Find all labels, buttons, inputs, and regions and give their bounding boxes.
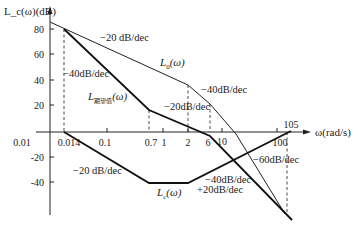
- annotation-lc-slope2: +20dB/dec: [197, 184, 244, 195]
- annotation-l0-slope2: −40dB/dec: [201, 84, 248, 95]
- y-tick-60: 60: [34, 49, 44, 60]
- y-ticks: [50, 29, 54, 182]
- annotation-lc-slope1: −20 dB/dec: [73, 165, 122, 176]
- x-tick-0.014: 0.014: [58, 137, 81, 148]
- x-tick-6: 6: [206, 137, 211, 148]
- annotation-l0-slope1: −20 dB/dec: [100, 32, 149, 43]
- y-tick-80: 80: [34, 24, 44, 35]
- x-tick-0.7: 0.7: [145, 137, 158, 148]
- x-tick-0.01: 0.01: [13, 137, 31, 148]
- desired-label: L期望值(ω): [87, 90, 128, 105]
- x-tick-0.1: 0.1: [99, 137, 112, 148]
- l0-label: L0(ω): [159, 56, 185, 71]
- annotation-desired-slope1: −40dB/dec: [63, 68, 110, 79]
- y-tick-40: 40: [34, 75, 44, 86]
- x-tick-2: 2: [186, 137, 191, 148]
- y-axis: [48, 6, 53, 215]
- y-tick-20: 20: [34, 100, 44, 111]
- x-tick-105: 105: [284, 119, 299, 130]
- x-tick-1: 1: [162, 137, 167, 148]
- x-axis-label: ω(rad/s): [315, 126, 351, 139]
- y-tick-neg20: -20: [31, 152, 44, 163]
- y-axis-label: L_c(ω)(dB): [4, 5, 56, 18]
- lc-label: Lc(ω): [156, 186, 182, 201]
- y-tick-neg40: -40: [31, 177, 44, 188]
- svg-text:L期望值(ω): L期望值(ω): [87, 90, 128, 105]
- bode-plot-svg: 80 60 40 20 -20 -40 0.01 0.014 0.1 0.7 1…: [0, 0, 358, 229]
- annotation-desired-slope2: −20dB/dec: [164, 101, 211, 112]
- svg-text:L0(ω): L0(ω): [159, 56, 185, 71]
- annotation-slope-60: −60dB/dec: [253, 154, 300, 165]
- bode-diagram: 80 60 40 20 -20 -40 0.01 0.014 0.1 0.7 1…: [0, 0, 358, 229]
- x-axis: [36, 130, 311, 135]
- svg-text:Lc(ω): Lc(ω): [156, 186, 182, 201]
